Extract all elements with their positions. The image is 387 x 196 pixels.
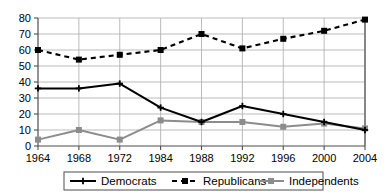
legend-label-democrats[interactable]: Democrats (101, 175, 157, 187)
x-tick-label: 1972 (108, 152, 132, 164)
line-chart: 01020304050607080 1964196819721984198819… (0, 0, 387, 196)
y-tick-label: 30 (19, 92, 31, 104)
legend-swatch-marker-republicans (182, 178, 188, 184)
series-marker-republicans (280, 36, 286, 42)
x-tick-label: 1992 (230, 152, 254, 164)
series-marker-republicans (158, 47, 164, 53)
y-tick-label: 70 (19, 28, 31, 40)
series-marker-independents (158, 117, 164, 123)
series-marker-republicans (321, 28, 327, 34)
x-axis-ticks: 196419681972198419881992199620002004 (26, 146, 377, 164)
x-tick-label: 2004 (353, 152, 377, 164)
x-tick-label: 1996 (271, 152, 295, 164)
x-tick-label: 1964 (26, 152, 50, 164)
legend-label-independents[interactable]: Independents (289, 175, 359, 187)
series-marker-independents (76, 127, 82, 133)
y-tick-label: 60 (19, 44, 31, 56)
series-marker-independents (280, 124, 286, 130)
x-tick-label: 2000 (312, 152, 336, 164)
series-marker-republicans (239, 45, 245, 51)
y-tick-label: 40 (19, 76, 31, 88)
series-marker-republicans (76, 57, 82, 63)
legend-swatch-marker-independents (268, 178, 274, 184)
series-marker-republicans (117, 52, 123, 58)
y-tick-label: 80 (19, 12, 31, 24)
y-axis-ticks: 01020304050607080 (19, 12, 38, 152)
chart-legend: DemocratsRepublicansIndependents (64, 172, 359, 190)
x-tick-label: 1968 (67, 152, 91, 164)
chart-container: 01020304050607080 1964196819721984198819… (0, 0, 387, 196)
series-marker-republicans (35, 47, 41, 53)
x-tick-label: 1988 (189, 152, 213, 164)
y-tick-label: 0 (25, 140, 31, 152)
legend-items: DemocratsRepublicansIndependents (70, 175, 359, 187)
series-marker-republicans (362, 17, 368, 23)
series-marker-independents (239, 119, 245, 125)
y-tick-label: 10 (19, 124, 31, 136)
y-tick-label: 20 (19, 108, 31, 120)
legend-label-republicans[interactable]: Republicans (203, 175, 267, 187)
series-marker-independents (35, 137, 41, 143)
series-marker-republicans (199, 31, 205, 37)
series-marker-independents (117, 137, 123, 143)
x-tick-label: 1984 (148, 152, 172, 164)
y-tick-label: 50 (19, 60, 31, 72)
